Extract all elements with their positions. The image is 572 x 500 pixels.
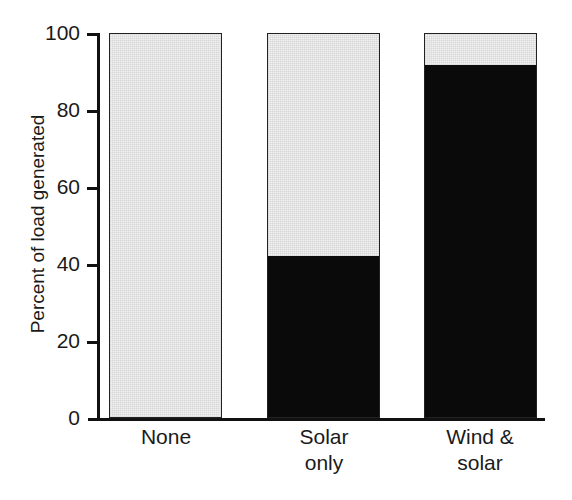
bar-none bbox=[109, 33, 222, 418]
bar-none-segment-conventional bbox=[110, 34, 221, 417]
y-tick-label-20: 20 bbox=[57, 330, 80, 351]
x-tick-label-wind-and-solar: Wind & solar bbox=[400, 424, 560, 475]
x-tick-label-wind-and-solar-line2: solar bbox=[400, 450, 560, 476]
y-tick-label-80: 80 bbox=[57, 99, 80, 120]
x-tick-label-solar-only-line2: only bbox=[244, 450, 404, 476]
plot-area: 100 80 60 40 20 0 bbox=[97, 33, 545, 418]
x-axis-line bbox=[88, 418, 545, 421]
y-tick-label-40: 40 bbox=[57, 253, 80, 274]
bar-wind-and-solar bbox=[424, 33, 537, 418]
y-tick-20 bbox=[87, 341, 97, 344]
y-tick-label-0: 0 bbox=[68, 407, 80, 428]
y-tick-80 bbox=[87, 110, 97, 113]
y-tick-label-100: 100 bbox=[45, 22, 80, 43]
y-tick-labels: 100 80 60 40 20 0 bbox=[2, 33, 80, 418]
bar-solar-only-segment-conventional bbox=[268, 34, 379, 256]
y-tick-40 bbox=[87, 264, 97, 267]
x-tick-label-none-line1: None bbox=[86, 424, 246, 450]
x-tick-label-wind-and-solar-line1: Wind & bbox=[400, 424, 560, 450]
x-tick-labels: None Solar only Wind & solar bbox=[97, 424, 545, 494]
bar-wind-and-solar-segment-renewable bbox=[425, 65, 536, 417]
x-tick-label-solar-only: Solar only bbox=[244, 424, 404, 475]
bar-wind-and-solar-segment-conventional bbox=[425, 34, 536, 65]
y-tick-100 bbox=[87, 33, 97, 36]
bar-solar-only-segment-renewable bbox=[268, 256, 379, 417]
y-axis-line bbox=[97, 33, 100, 418]
x-tick-label-none: None bbox=[86, 424, 246, 450]
x-tick-label-solar-only-line1: Solar bbox=[244, 424, 404, 450]
y-tick-60 bbox=[87, 187, 97, 190]
bar-solar-only bbox=[267, 33, 380, 418]
chart-figure: Percent of load generated 100 80 60 40 2… bbox=[0, 0, 572, 500]
y-tick-label-60: 60 bbox=[57, 176, 80, 197]
